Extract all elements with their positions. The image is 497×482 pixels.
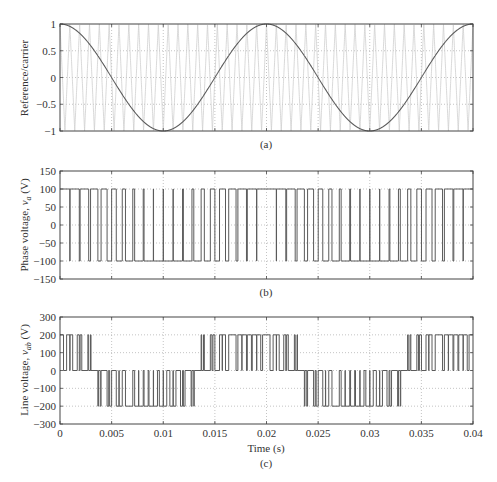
y-tick-label: 50: [45, 201, 57, 213]
x-tick-label: 0.015: [203, 427, 228, 439]
y-tick-label: 0: [51, 72, 57, 84]
y-tick-label: 0.5: [42, 45, 56, 57]
x-tick-label: 0.005: [99, 427, 124, 439]
x-tick-label: 0.04: [463, 427, 483, 439]
x-tick-label: 0.02: [257, 427, 276, 439]
x-tick-label: 0.01: [154, 427, 173, 439]
y-tick-label: −0.5: [36, 98, 56, 110]
y-tick-label: 1: [51, 18, 57, 30]
panel-c-y-label: Line voltage, vab (V): [18, 324, 33, 416]
panel-b-caption: (b): [260, 286, 273, 299]
y-tick-label: −100: [33, 382, 56, 394]
x-tick-label: 0.025: [306, 427, 331, 439]
y-tick-label: 100: [40, 183, 57, 195]
y-tick-label: 150: [40, 165, 57, 177]
y-tick-label: −200: [33, 400, 56, 412]
panel-b-phase-voltage: 150100500−50−100−150 Phase voltage, va (…: [18, 165, 473, 299]
y-tick-label: 200: [40, 329, 57, 341]
y-tick-label: 0: [51, 219, 57, 231]
panel-a-reference-carrier: 10.50−0.5−1 Reference/carrier (a): [18, 18, 473, 151]
figure: 10.50−0.5−1 Reference/carrier (a) 150100…: [0, 0, 497, 482]
y-tick-label: 0: [51, 365, 57, 377]
y-tick-label: −100: [33, 255, 56, 267]
x-tick-label: 0: [57, 427, 63, 439]
y-tick-label: −1: [44, 125, 56, 137]
panel-c-x-ticks: 00.0050.010.0150.020.0250.030.0350.04: [57, 427, 483, 439]
y-tick-label: −150: [33, 273, 56, 285]
y-tick-label: −300: [33, 418, 56, 430]
x-axis-label: Time (s): [247, 442, 285, 455]
y-tick-label: 100: [40, 347, 57, 359]
panel-c-line-voltage: 3002001000−100−200−300 00.0050.010.0150.…: [18, 311, 483, 470]
panel-a-caption: (a): [260, 138, 273, 151]
x-tick-label: 0.035: [409, 427, 434, 439]
panel-a-grid: [60, 24, 473, 131]
panel-c-caption: (c): [260, 457, 273, 470]
panel-b-y-label: Phase voltage, va (V): [18, 178, 33, 272]
x-tick-label: 0.03: [360, 427, 380, 439]
panel-a-y-label: Reference/carrier: [18, 40, 30, 117]
y-tick-label: 300: [40, 311, 57, 323]
y-tick-label: −50: [39, 237, 57, 249]
